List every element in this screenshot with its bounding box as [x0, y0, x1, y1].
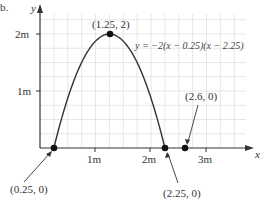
y-axis-arrow-icon: [37, 4, 43, 13]
corner-label: b.: [0, 1, 9, 13]
y-axis-label: y: [30, 2, 36, 14]
grid: [40, 14, 246, 148]
x-axis-arrow-icon: [245, 145, 254, 151]
vertex-label: (1.25, 2): [92, 18, 130, 31]
x-tick-1m: 1m: [87, 153, 102, 165]
parabola-chart: b. y x 2m 1m 1m 2m 3m y = −2(x − 0.25)(x…: [0, 0, 260, 201]
root-right-label: (2.25, 0): [163, 187, 201, 200]
y-tick-2m: 2m: [15, 28, 30, 40]
root-left-label: (0.25, 0): [10, 183, 48, 196]
root-left-point: [51, 145, 58, 152]
y-tick-1m: 1m: [17, 85, 32, 97]
vertex-point: [107, 31, 114, 38]
x-axis-label: x: [254, 148, 260, 160]
equation-label: y = −2(x − 0.25)(x − 2.25): [134, 40, 244, 52]
point-2-6: [182, 145, 189, 152]
root-right-point: [162, 145, 169, 152]
point-2-6-label: (2.6, 0): [185, 90, 217, 103]
x-tick-3m: 3m: [198, 153, 213, 165]
x-tick-2m: 2m: [142, 153, 157, 165]
